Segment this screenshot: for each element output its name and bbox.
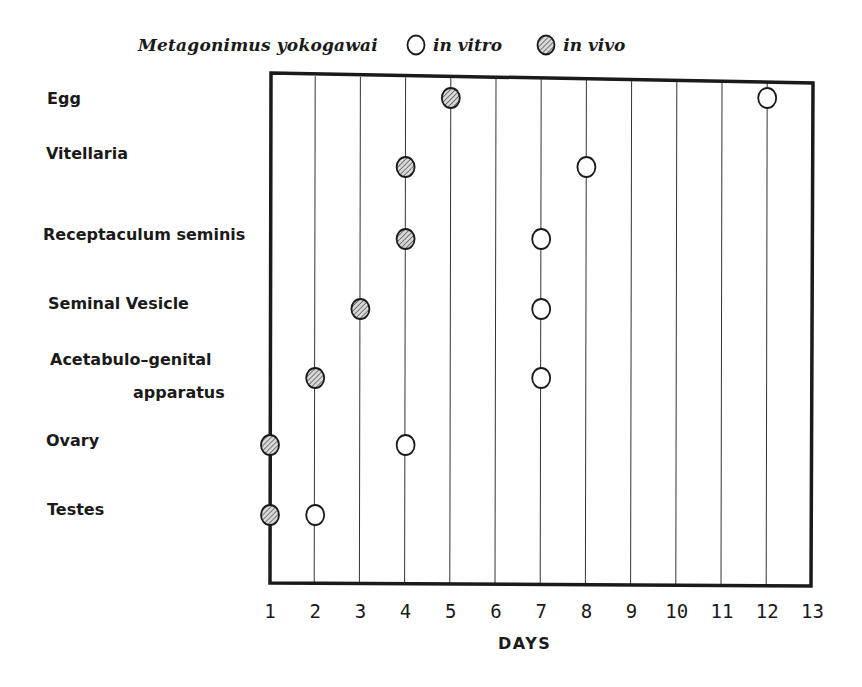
gridline-day-6 xyxy=(495,79,496,585)
x-axis-label: DAYS xyxy=(498,634,551,653)
in-vivo-marker xyxy=(397,157,415,177)
x-tick-8: 8 xyxy=(581,600,592,622)
x-tick-6: 6 xyxy=(490,600,501,622)
in-vivo-marker xyxy=(306,368,324,388)
in-vivo-marker xyxy=(442,88,460,108)
gridline-day-10 xyxy=(676,81,677,585)
in-vivo-marker xyxy=(261,505,279,525)
in-vitro-marker xyxy=(532,229,550,249)
data-markers xyxy=(261,88,776,525)
x-tick-7: 7 xyxy=(535,600,546,622)
gridline-day-5 xyxy=(450,78,451,585)
x-tick-5: 5 xyxy=(445,600,456,622)
x-tick-2: 2 xyxy=(309,600,320,622)
gridline-day-12 xyxy=(766,82,767,585)
day-gridlines xyxy=(314,76,767,585)
gridline-day-11 xyxy=(721,82,722,585)
x-tick-13: 13 xyxy=(801,600,824,622)
x-tick-9: 9 xyxy=(626,600,637,622)
in-vitro-marker xyxy=(532,299,550,319)
plot-area xyxy=(0,0,862,687)
in-vitro-marker xyxy=(397,435,415,455)
in-vitro-marker xyxy=(758,88,776,108)
x-tick-4: 4 xyxy=(400,600,411,622)
gridline-day-8 xyxy=(585,80,586,585)
in-vitro-marker xyxy=(306,505,324,525)
x-tick-3: 3 xyxy=(355,600,366,622)
in-vivo-marker xyxy=(261,435,279,455)
gridline-day-3 xyxy=(359,77,360,585)
in-vitro-marker xyxy=(577,157,595,177)
gridline-day-9 xyxy=(631,81,632,585)
gridline-day-7 xyxy=(540,79,541,585)
x-tick-12: 12 xyxy=(756,600,779,622)
in-vitro-marker xyxy=(532,368,550,388)
x-tick-11: 11 xyxy=(711,600,734,622)
in-vivo-marker xyxy=(351,299,369,319)
gridline-day-4 xyxy=(405,77,406,585)
x-tick-1: 1 xyxy=(264,600,275,622)
x-tick-10: 10 xyxy=(665,600,688,622)
in-vivo-marker xyxy=(397,229,415,249)
